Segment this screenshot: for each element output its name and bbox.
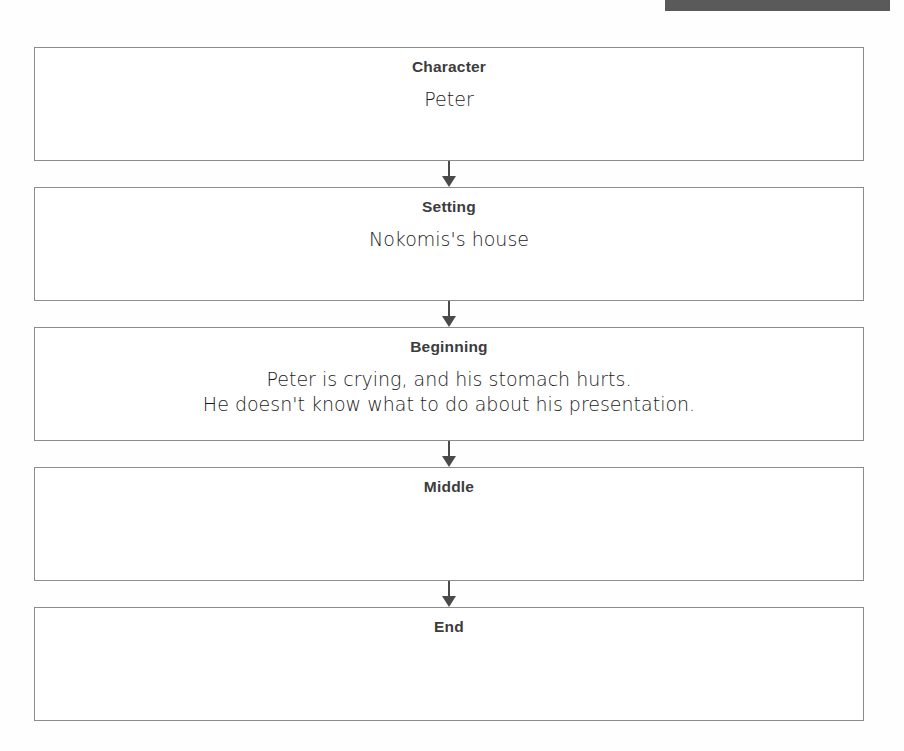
- story-node-character[interactable]: Character Peter: [34, 47, 864, 161]
- arrow-down-icon: [442, 176, 456, 187]
- connector-middle-to-end: [34, 581, 864, 607]
- node-heading: End: [35, 617, 863, 636]
- node-response-text: Peter: [35, 87, 863, 112]
- arrow-down-icon: [442, 596, 456, 607]
- node-response-text: Nokomis's house: [35, 227, 863, 252]
- scan-artifact-bar: [665, 0, 890, 11]
- arrow-down-icon: [442, 316, 456, 327]
- connector-beginning-to-middle: [34, 441, 864, 467]
- story-node-setting[interactable]: Setting Nokomis's house: [34, 187, 864, 301]
- connector-setting-to-beginning: [34, 301, 864, 327]
- node-response-text: Peter is crying, and his stomach hurts. …: [35, 367, 863, 417]
- worksheet-page: Character Peter Setting Nokomis's house …: [0, 0, 904, 751]
- node-heading: Setting: [35, 197, 863, 216]
- connector-character-to-setting: [34, 161, 864, 187]
- story-node-end[interactable]: End: [34, 607, 864, 721]
- story-node-beginning[interactable]: Beginning Peter is crying, and his stoma…: [34, 327, 864, 441]
- story-node-middle[interactable]: Middle: [34, 467, 864, 581]
- story-map-flowchart: Character Peter Setting Nokomis's house …: [34, 47, 864, 721]
- node-heading: Beginning: [35, 337, 863, 356]
- node-heading: Character: [35, 57, 863, 76]
- arrow-down-icon: [442, 456, 456, 467]
- node-heading: Middle: [35, 477, 863, 496]
